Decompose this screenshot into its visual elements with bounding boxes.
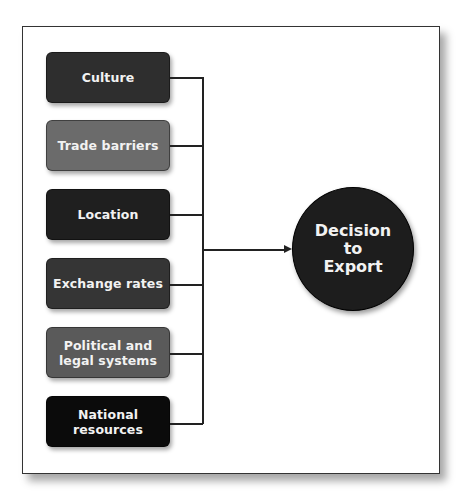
factor-label: Trade barriers (57, 138, 158, 153)
factor-label: Culture (82, 70, 135, 85)
factor-exchange-rates: Exchange rates (46, 258, 170, 309)
factor-label-line2: legal systems (59, 353, 157, 368)
decision-to-export-node: Decision to Export (292, 187, 414, 311)
connector-to-decision (202, 249, 286, 251)
connector-location (170, 214, 203, 216)
connector-culture (170, 77, 203, 79)
factor-label: Location (78, 207, 139, 222)
outcome-line1: Decision (315, 222, 392, 240)
connector-national-resources (170, 423, 203, 425)
outcome-line2: to (344, 240, 363, 258)
arrowhead-icon (284, 245, 292, 253)
factor-label-line1: National (78, 407, 138, 422)
factor-culture: Culture (46, 52, 170, 103)
factor-label-line2: resources (73, 422, 143, 437)
factor-label-line1: Political and (64, 338, 153, 353)
connector-exchange-rates (170, 284, 203, 286)
connector-trade-barriers (170, 145, 203, 147)
connector-political-legal (170, 353, 203, 355)
factor-national-resources: National resources (46, 396, 170, 447)
factor-label: Exchange rates (53, 276, 163, 291)
outcome-line3: Export (323, 258, 382, 276)
factor-political-legal-systems: Political and legal systems (46, 327, 170, 378)
factor-location: Location (46, 189, 170, 240)
factor-trade-barriers: Trade barriers (46, 120, 170, 171)
connector-vertical-bus (202, 77, 204, 424)
